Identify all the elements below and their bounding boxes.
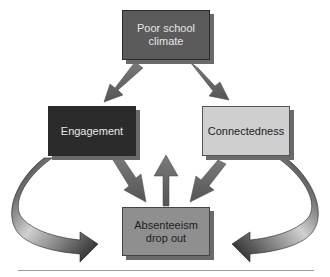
arrow-climate-to-connectedness xyxy=(190,62,229,100)
node-label: Engagement xyxy=(61,125,123,138)
node-engagement: Engagement xyxy=(48,106,136,156)
curved-arrow-engagement-to-absenteeism xyxy=(12,158,98,262)
node-label: Absenteeism xyxy=(134,219,198,232)
arrow-climate-to-engagement xyxy=(104,62,143,102)
node-label: Poor school xyxy=(137,22,195,35)
node-poor-school-climate: Poor school climate xyxy=(122,10,210,60)
arrow-connectedness-to-absenteeism xyxy=(190,160,226,202)
arrow-absenteeism-up xyxy=(154,155,178,206)
node-label: Connectedness xyxy=(208,125,284,138)
bottom-divider xyxy=(18,270,314,271)
node-absenteeism-drop-out: Absenteeism drop out xyxy=(122,207,210,256)
curved-arrow-connectedness-to-absenteeism xyxy=(232,158,318,262)
arrow-engagement-to-absenteeism xyxy=(113,156,146,202)
node-label: climate xyxy=(137,35,195,48)
node-connectedness: Connectedness xyxy=(202,106,290,156)
node-label: drop out xyxy=(134,232,198,245)
